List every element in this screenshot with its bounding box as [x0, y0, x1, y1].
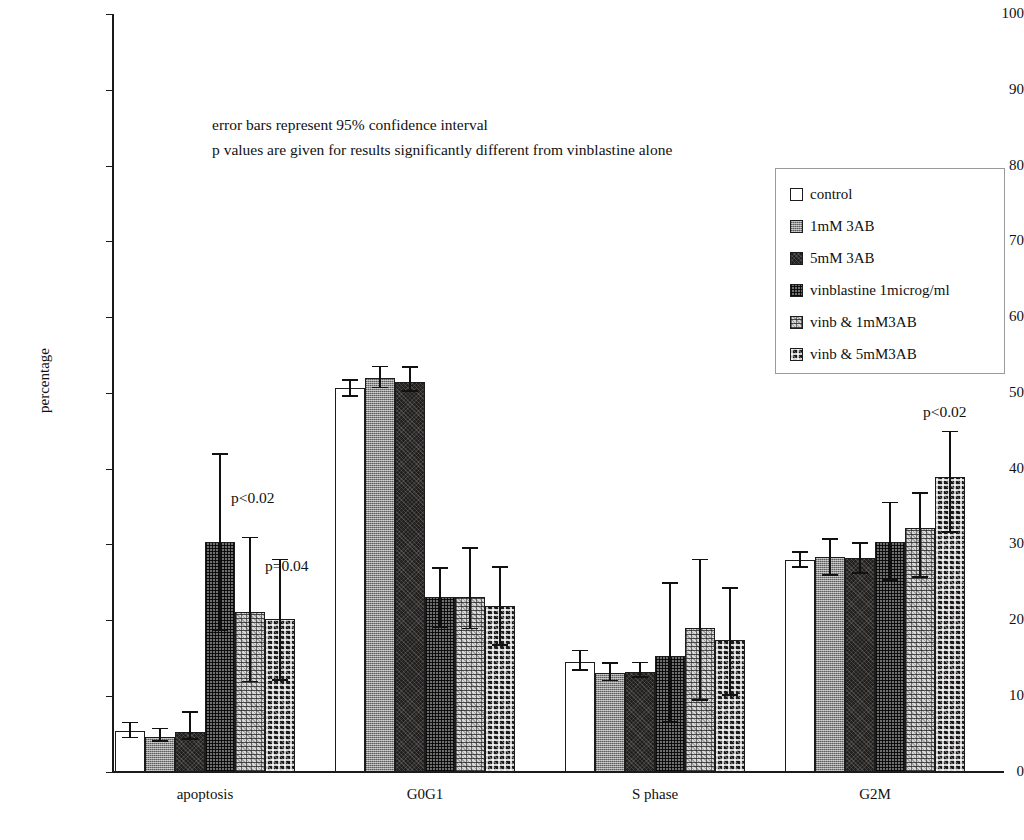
legend-item[interactable]: vinb & 1mM3AB — [790, 306, 1004, 338]
legend-box: control1mM 3AB5mM 3ABvinblastine 1microg… — [775, 168, 1005, 374]
y-tick-mark — [106, 544, 112, 545]
error-bar-cap-top — [852, 542, 868, 544]
error-bar-cap-bottom — [122, 737, 138, 739]
bar-slot[interactable] — [625, 0, 655, 772]
legend-item[interactable]: vinblastine 1microg/ml — [790, 274, 1004, 306]
error-bar-cap-bottom — [792, 566, 808, 568]
bar-slot[interactable] — [265, 0, 295, 772]
error-bar — [949, 431, 951, 533]
error-bar-cap-top — [942, 431, 958, 433]
legend-item[interactable]: 1mM 3AB — [790, 210, 1004, 242]
legend-item-label: control — [810, 187, 853, 202]
bar-slot[interactable] — [715, 0, 745, 772]
y-tick-mark — [106, 241, 112, 242]
swatch-5mm-3ab — [790, 252, 803, 265]
bar-slot[interactable] — [935, 0, 965, 772]
category-label: G0G1 — [335, 786, 515, 803]
error-bar-cap-top — [692, 559, 708, 561]
pvalue-label: p<0.02 — [231, 489, 275, 507]
error-bar — [859, 542, 861, 574]
y-tick-mark — [106, 90, 112, 91]
error-bar — [159, 728, 161, 742]
error-bar-cap-top — [822, 538, 838, 540]
bar[interactable] — [335, 388, 365, 771]
legend-item-label: 5mM 3AB — [810, 251, 875, 266]
bar-slot[interactable] — [455, 0, 485, 772]
bar-slot[interactable] — [425, 0, 455, 772]
legend-item[interactable]: vinb & 5mM3AB — [790, 338, 1004, 370]
error-bar-cap-top — [492, 566, 508, 568]
error-bar-cap-bottom — [632, 676, 648, 678]
bar[interactable] — [595, 673, 625, 771]
bar[interactable] — [395, 382, 425, 771]
error-bar-cap-bottom — [852, 572, 868, 574]
error-bar — [799, 551, 801, 568]
legend-item[interactable]: 5mM 3AB — [790, 242, 1004, 274]
bar[interactable] — [625, 672, 655, 772]
bar[interactable] — [845, 558, 875, 772]
legend-item-label: 1mM 3AB — [810, 219, 875, 234]
bar-group — [565, 0, 745, 772]
bar-slot[interactable] — [845, 0, 875, 772]
error-bar-cap-bottom — [912, 576, 928, 578]
y-tick-mark — [106, 393, 112, 394]
error-bar — [469, 547, 471, 629]
y-tick-mark — [106, 14, 112, 15]
bar-slot[interactable] — [485, 0, 515, 772]
bar-slot[interactable] — [685, 0, 715, 772]
error-bar — [499, 566, 501, 646]
bar-slot[interactable] — [175, 0, 205, 772]
error-bar-cap-top — [792, 551, 808, 553]
bar-slot[interactable] — [655, 0, 685, 772]
error-bar — [379, 366, 381, 389]
bar-slot[interactable] — [205, 0, 235, 772]
error-bar — [439, 567, 441, 628]
pvalue-label: p=0.04 — [265, 557, 309, 575]
bar-slot[interactable] — [235, 0, 265, 772]
y-tick-mark — [106, 772, 112, 773]
bar-slot[interactable] — [875, 0, 905, 772]
bar-slot[interactable] — [815, 0, 845, 772]
error-bar-cap-top — [342, 379, 358, 381]
error-bar-cap-bottom — [492, 644, 508, 646]
bar-slot[interactable] — [335, 0, 365, 772]
bar-slot[interactable] — [565, 0, 595, 772]
legend-item[interactable]: control — [790, 178, 1004, 210]
error-bar — [349, 379, 351, 396]
bar[interactable] — [565, 662, 595, 771]
bar-slot[interactable] — [145, 0, 175, 772]
y-tick-mark — [106, 620, 112, 621]
bar-slot[interactable] — [905, 0, 935, 772]
error-bar-cap-top — [912, 492, 928, 494]
error-bar — [129, 722, 131, 739]
error-bar-cap-bottom — [882, 579, 898, 581]
error-bar — [579, 650, 581, 671]
bar[interactable] — [785, 560, 815, 771]
error-bar-cap-top — [662, 582, 678, 584]
error-bar-cap-bottom — [212, 630, 228, 632]
bar-slot[interactable] — [395, 0, 425, 772]
error-bar-cap-bottom — [342, 395, 358, 397]
y-tick-mark — [106, 469, 112, 470]
error-bar-cap-bottom — [662, 721, 678, 723]
y-axis-line — [112, 14, 114, 772]
error-bar — [699, 559, 701, 701]
legend-item-label: vinb & 1mM3AB — [810, 315, 917, 330]
swatch-vinb-1mm3ab — [790, 316, 803, 329]
error-bar — [919, 492, 921, 578]
bar-slot[interactable] — [365, 0, 395, 772]
bar[interactable] — [365, 378, 395, 772]
bar-slot[interactable] — [595, 0, 625, 772]
bar[interactable] — [815, 557, 845, 771]
error-bar — [829, 538, 831, 576]
bar-group — [115, 0, 295, 772]
category-label: G2M — [785, 786, 965, 803]
error-bar — [409, 366, 411, 392]
error-bar-cap-top — [882, 502, 898, 504]
bar-slot[interactable] — [115, 0, 145, 772]
bar-slot[interactable] — [785, 0, 815, 772]
error-bar — [189, 711, 191, 740]
error-bar-cap-top — [432, 567, 448, 569]
error-bar-cap-bottom — [272, 679, 288, 681]
y-tick-mark — [106, 166, 112, 167]
